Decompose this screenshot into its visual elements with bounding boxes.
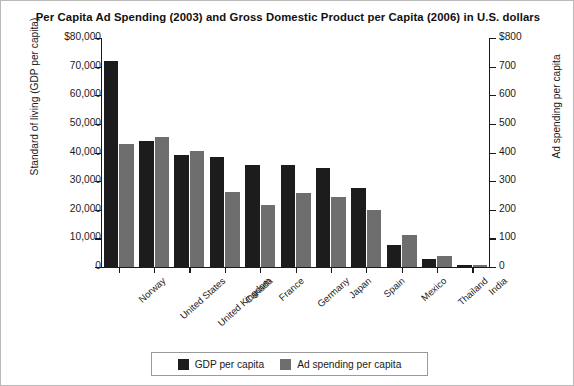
y-tick-mark-right	[490, 95, 496, 96]
bar-group	[174, 38, 204, 267]
bar-gdp-per-capita	[245, 165, 260, 267]
y-tick-mark-right	[490, 210, 496, 211]
bar-group	[422, 38, 452, 267]
chart-legend: GDP per capita Ad spending per capita	[151, 352, 428, 376]
plot-area	[101, 38, 490, 267]
x-category-label: Thailand	[455, 275, 489, 308]
y-tick-mark-right	[490, 124, 496, 125]
bar-gdp-per-capita	[139, 141, 154, 267]
bar-ad-spending-per-capita	[261, 205, 276, 267]
legend-item-ad-spending: Ad spending per capita	[280, 359, 401, 370]
y-tick-mark-right	[490, 67, 496, 68]
bar-gdp-per-capita	[104, 61, 119, 267]
bar-gdp-per-capita	[387, 245, 402, 267]
y-tick-label-right: 400	[499, 146, 545, 157]
bar-group	[210, 38, 240, 267]
bar-gdp-per-capita	[174, 155, 189, 267]
bar-gdp-per-capita	[422, 259, 437, 267]
bar-ad-spending-per-capita	[225, 192, 240, 267]
bar-group	[351, 38, 381, 267]
x-category-label: India	[487, 275, 510, 297]
bar-ad-spending-per-capita	[402, 235, 417, 267]
y-axis-right-title: Ad spending per capita	[551, 22, 562, 192]
bar-gdp-per-capita	[351, 188, 366, 267]
legend-label-gdp: GDP per capita	[195, 359, 264, 370]
bar-group	[457, 38, 487, 267]
y-tick-label-left: 10,000	[15, 231, 101, 242]
chart-container: Per Capita Ad Spending (2003) and Gross …	[0, 0, 574, 386]
y-tick-label-left: 20,000	[15, 203, 101, 214]
bar-gdp-per-capita	[281, 165, 296, 267]
y-tick-label-right: 100	[499, 231, 545, 242]
bar-ad-spending-per-capita	[155, 137, 170, 267]
bar-group	[139, 38, 169, 267]
bar-gdp-per-capita	[210, 157, 225, 267]
legend-swatch-ad-spending-icon	[280, 359, 291, 370]
y-tick-label-right: 600	[499, 88, 545, 99]
legend-label-ad-spending: Ad spending per capita	[297, 359, 401, 370]
x-category-label: Germany	[315, 275, 351, 309]
bar-ad-spending-per-capita	[119, 144, 134, 267]
y-tick-label-right: 500	[499, 117, 545, 128]
y-tick-mark-right	[490, 181, 496, 182]
bar-group	[316, 38, 346, 267]
y-tick-label-right: 300	[499, 174, 545, 185]
y-tick-mark-right	[490, 238, 496, 239]
x-category-label: Spain	[381, 275, 406, 299]
bar-gdp-per-capita	[316, 168, 331, 267]
bar-group	[281, 38, 311, 267]
bar-ad-spending-per-capita	[190, 151, 205, 267]
y-tick-mark-right	[490, 153, 496, 154]
legend-swatch-gdp-icon	[178, 359, 189, 370]
bar-ad-spending-per-capita	[367, 210, 382, 267]
x-axis-category-labels: NorwayUnited StatesUnited KingdomCanadaF…	[1, 267, 574, 337]
legend-item-gdp: GDP per capita	[178, 359, 264, 370]
x-category-label: Norway	[136, 275, 167, 305]
bar-ad-spending-per-capita	[331, 197, 346, 267]
bar-ad-spending-per-capita	[296, 193, 311, 267]
y-tick-label-right: 200	[499, 203, 545, 214]
y-axis-left-title: Standard of living (GDP per capita)	[29, 2, 40, 192]
y-tick-label-right: $800	[499, 31, 545, 42]
y-tick-mark-right	[490, 38, 496, 39]
bar-ad-spending-per-capita	[437, 256, 452, 267]
bar-group	[387, 38, 417, 267]
x-category-label: France	[277, 275, 306, 303]
x-category-label: Japan	[347, 275, 374, 300]
bar-group	[104, 38, 134, 267]
bar-group	[245, 38, 275, 267]
y-tick-label-right: 700	[499, 60, 545, 71]
x-category-label: Mexico	[418, 275, 448, 303]
